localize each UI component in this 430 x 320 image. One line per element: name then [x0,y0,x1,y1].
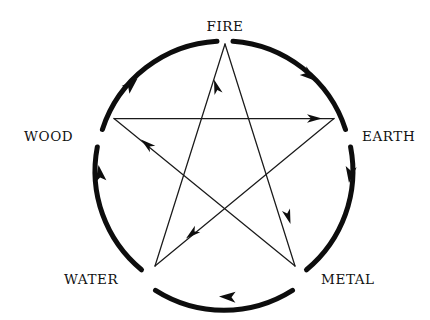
arc-metal-to-water [156,290,293,310]
arrowhead-earth-to-water [183,226,200,242]
arc-fire-to-earth [233,41,346,129]
edge-water-to-fire [155,44,225,266]
edge-fire-to-metal [225,44,295,266]
outer-cycle-arrowheads [94,66,357,302]
arc-water-to-wood [95,147,141,270]
element-label-metal: METAL [321,273,375,287]
arrowhead-metal-to-water [219,290,237,303]
arc-wood-to-fire [102,41,217,129]
element-label-earth: EARTH [362,130,415,144]
pentagram-group [114,44,334,266]
arc-earth-to-metal [307,147,353,270]
arrowhead-fire-to-metal [282,208,295,225]
wuxing-diagram: FIRE WOOD EARTH WATER METAL [0,0,430,320]
outer-circle-group [94,41,357,310]
edge-earth-to-water [155,119,334,267]
element-label-fire: FIRE [206,20,243,34]
element-label-water: WATER [64,273,118,287]
edge-metal-to-wood [114,119,295,267]
element-label-wood: WOOD [24,130,73,144]
